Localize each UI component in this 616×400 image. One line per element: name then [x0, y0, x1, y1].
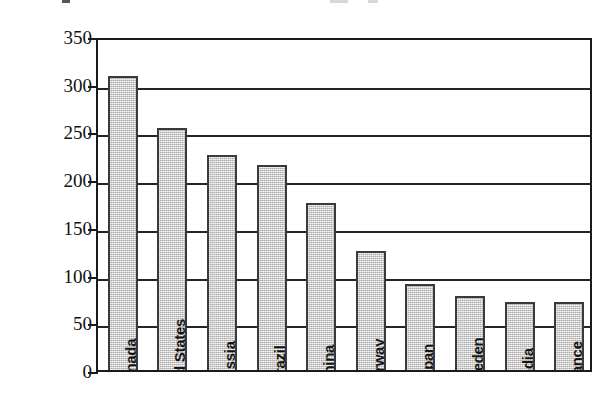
scan-artifact: [330, 0, 348, 3]
y-tick-label: 150: [44, 219, 92, 238]
bars-layer: CanadaUnited StatesRussiaBrazilChinaNorw…: [98, 40, 590, 370]
y-tick-label: 100: [44, 267, 92, 286]
y-axis-title: Billion Kilowatt-hours: [14, 0, 42, 66]
y-tick-mark: [88, 372, 98, 374]
bar[interactable]: China: [306, 203, 336, 370]
bar[interactable]: United States: [157, 128, 187, 370]
bar[interactable]: Sweden: [455, 296, 485, 370]
y-tick-label: 0: [44, 362, 92, 381]
y-tick-label: 50: [44, 314, 92, 333]
bar[interactable]: Brazil: [257, 165, 287, 370]
y-tick-label: 350: [44, 28, 92, 47]
y-tick-label: 200: [44, 171, 92, 190]
bar[interactable]: Canada: [108, 76, 138, 370]
bar[interactable]: India: [505, 302, 535, 370]
y-axis-tick-labels: 050100150200250300350: [44, 38, 92, 372]
bar[interactable]: Japan: [405, 284, 435, 370]
y-tick-label: 300: [44, 76, 92, 95]
scan-artifact: [62, 0, 70, 3]
bar[interactable]: France: [554, 302, 584, 370]
y-tick-label: 250: [44, 123, 92, 142]
bar[interactable]: Russia: [207, 155, 237, 370]
plot-area: CanadaUnited StatesRussiaBrazilChinaNorw…: [96, 38, 592, 372]
bar[interactable]: Norway: [356, 251, 386, 370]
bar-chart-figure: Billion Kilowatt-hours 05010015020025030…: [0, 0, 616, 400]
scan-artifact: [368, 0, 378, 3]
